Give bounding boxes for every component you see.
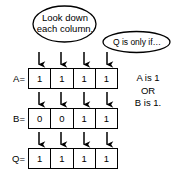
cell-b-3: 1 <box>96 109 117 128</box>
row-label-q: Q= <box>1 153 25 164</box>
arrow-group-row-b-to-row-q <box>39 132 107 145</box>
cell-q-1: 1 <box>51 149 73 168</box>
diagram-canvas: Look down each column. Q is only if… A= … <box>0 0 178 181</box>
table-row-a: 1 1 1 1 <box>28 68 118 89</box>
cell-q-2: 1 <box>74 149 96 168</box>
table-row-q: 1 1 1 1 <box>28 148 118 169</box>
side-note-line-1: A is 1 <box>120 72 176 85</box>
side-note-line-2: OR <box>120 85 176 98</box>
table-row-b: 0 0 1 1 <box>28 108 118 129</box>
arrow-group-above-row-a <box>39 52 107 65</box>
cell-b-2: 1 <box>74 109 96 128</box>
cell-a-2: 1 <box>74 69 96 88</box>
side-note-or-condition: A is 1 OR B is 1. <box>120 72 176 110</box>
cell-b-1: 0 <box>51 109 73 128</box>
cell-a-1: 1 <box>51 69 73 88</box>
callout-bubble-q-is-only-if <box>103 32 170 53</box>
cell-a-0: 1 <box>29 69 51 88</box>
cell-a-3: 1 <box>96 69 117 88</box>
arrow-group-row-a-to-row-b <box>39 92 107 105</box>
cell-q-0: 1 <box>29 149 51 168</box>
callout-bubble-look-down <box>33 6 96 42</box>
cell-b-0: 0 <box>29 109 51 128</box>
cell-q-3: 1 <box>96 149 117 168</box>
row-label-b: B= <box>1 113 25 124</box>
row-label-a: A= <box>1 73 25 84</box>
side-note-line-3: B is 1. <box>120 97 176 110</box>
